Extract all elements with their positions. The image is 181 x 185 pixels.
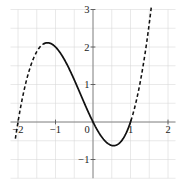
x-tick-label: 0: [84, 124, 89, 135]
y-tick-label: 3: [84, 4, 89, 15]
y-tick-label: −1: [78, 154, 89, 165]
x-tick-label: −1: [50, 124, 61, 135]
cubic-function-figure: −2−1012321−1: [0, 0, 181, 185]
plot-background: [0, 0, 181, 185]
y-tick-label: 1: [84, 79, 89, 90]
function-plot-svg: −2−1012321−1: [0, 0, 181, 185]
x-tick-label: 2: [165, 124, 170, 135]
y-tick-label: 2: [84, 42, 89, 53]
